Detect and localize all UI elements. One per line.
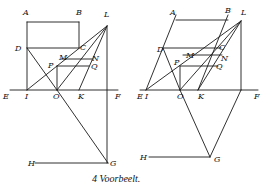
point-label-k: K [197,92,205,101]
line-segment [163,48,180,90]
geometry-figures: ABLDCMNPQEIOKFHG ABLDCMNPQEIOKFHG 4 Voor… [0,0,274,190]
point-label-i: I [24,92,29,101]
line-segment [210,90,241,157]
point-label-p: P [47,61,54,70]
point-label-e: E [2,92,9,101]
point-label-d: D [156,45,164,54]
point-label-e: E [136,92,143,101]
point-label-f: F [114,92,121,101]
point-label-l: L [240,8,246,17]
point-label-k: K [77,92,85,101]
point-label-l: L [103,10,109,19]
right-figure: ABLDCMNPQEIOKFHG [136,6,260,164]
point-label-h: H [27,159,36,168]
point-label-c: C [219,43,225,52]
point-label-q: Q [91,62,98,71]
point-label-p: P [173,58,180,67]
line-segment [180,90,210,157]
point-label-d: D [14,44,22,53]
point-label-g: G [110,159,117,168]
point-label-q: Q [216,62,223,71]
diagram-canvas: ABLDCMNPQEIOKFHG ABLDCMNPQEIOKFHG 4 Voor… [0,0,274,190]
point-label-b: B [224,6,231,15]
point-label-f: F [253,92,260,101]
point-label-g: G [214,155,221,164]
point-label-a: A [22,8,29,17]
point-label-b: B [75,8,82,17]
point-label-o: O [177,92,184,101]
point-label-o: O [53,92,60,101]
point-label-m: M [58,53,68,62]
point-label-h: H [139,153,148,162]
line-segment [198,21,241,90]
figure-caption: 4 Voorbeelt. [92,173,140,184]
point-label-i: I [144,92,149,101]
point-label-a: A [169,8,176,17]
point-label-c: C [80,43,86,52]
left-figure: ABLDCMNPQEIOKFHG [2,8,121,168]
point-label-m: M [185,51,195,60]
